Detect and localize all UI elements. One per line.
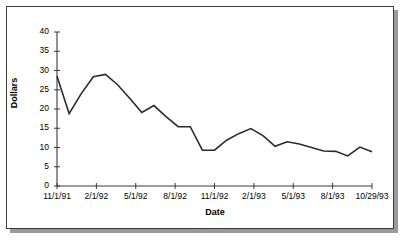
chart-figure: Dollars Date 0510152025303540 11/1/912/1…	[0, 0, 407, 246]
y-tick-label: 25	[27, 85, 49, 94]
data-series-line	[57, 74, 372, 156]
y-tick-label: 40	[27, 27, 49, 36]
y-tick-label: 30	[27, 66, 49, 75]
y-tick-label: 0	[27, 181, 49, 190]
x-tick-label: 5/1/92	[124, 192, 148, 201]
x-tick-label: 11/1/92	[201, 192, 229, 201]
y-tick-label: 5	[27, 162, 49, 171]
x-tick-label: 5/1/93	[281, 192, 305, 201]
chart-plot-area	[0, 0, 407, 246]
x-tick-label: 2/1/93	[242, 192, 266, 201]
y-tick-label: 10	[27, 143, 49, 152]
y-tick-label: 20	[27, 104, 49, 113]
x-tick-label: 11/1/91	[43, 192, 71, 201]
x-tick-label: 8/1/92	[163, 192, 187, 201]
y-tick-label: 35	[27, 46, 49, 55]
x-tick-label: 8/1/93	[321, 192, 345, 201]
x-tick-label: 10/29/93	[355, 192, 388, 201]
y-tick-label: 15	[27, 123, 49, 132]
x-tick-label: 2/1/92	[85, 192, 109, 201]
